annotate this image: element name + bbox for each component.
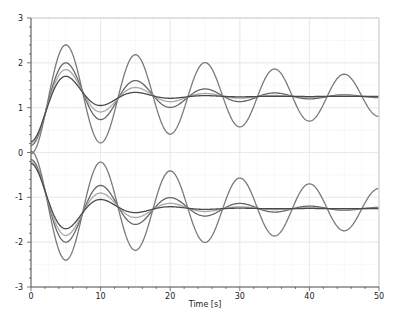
x-tick-label: 50 xyxy=(374,292,384,301)
x-tick-label: 40 xyxy=(304,292,314,301)
chart-svg: -3-2-10123 01020304050 Time [s] xyxy=(0,0,397,326)
y-tick-label: -2 xyxy=(15,238,23,247)
y-tick-label: 1 xyxy=(18,104,23,113)
x-tick-label: 30 xyxy=(235,292,245,301)
y-axis-ticks: -3-2-10123 xyxy=(15,14,31,292)
x-tick-label: 20 xyxy=(165,292,175,301)
y-tick-label: 0 xyxy=(18,149,23,158)
y-tick-label: 2 xyxy=(18,59,23,68)
x-tick-label: 10 xyxy=(96,292,106,301)
y-tick-label: -1 xyxy=(15,193,23,202)
y-tick-label: -3 xyxy=(15,283,23,292)
x-tick-label: 0 xyxy=(28,292,33,301)
x-axis-label: Time [s] xyxy=(188,300,222,309)
y-tick-label: 3 xyxy=(18,14,23,23)
x-axis-ticks: 01020304050 xyxy=(28,287,384,301)
grid xyxy=(31,18,379,287)
step-response-chart: -3-2-10123 01020304050 Time [s] xyxy=(0,0,397,326)
